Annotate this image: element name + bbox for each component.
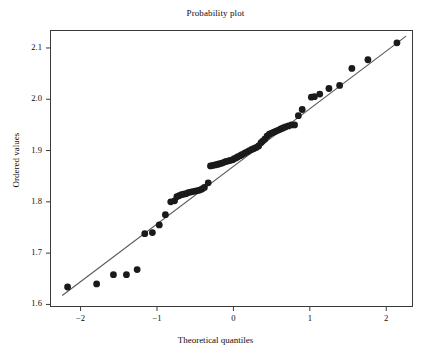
data-point: [134, 266, 141, 273]
probability-plot-figure: Probability plot 1.61.71.81.92.02.1 −2−1…: [0, 0, 431, 359]
data-point: [205, 179, 212, 186]
reference-line: [62, 36, 406, 295]
data-point: [365, 56, 372, 63]
data-point: [295, 112, 302, 119]
data-point: [141, 230, 148, 237]
x-axis-label: Theoretical quantiles: [0, 335, 431, 345]
data-point: [326, 85, 333, 92]
data-point: [149, 229, 156, 236]
data-point: [64, 284, 71, 291]
data-point: [291, 121, 298, 128]
data-point: [162, 211, 169, 218]
y-axis-label: Ordered values: [11, 100, 21, 220]
data-point: [93, 281, 100, 288]
data-point: [316, 91, 323, 98]
plot-canvas: [0, 0, 431, 359]
data-point: [336, 82, 343, 89]
data-point-group: [64, 39, 400, 290]
data-point: [123, 271, 130, 278]
data-point: [299, 106, 306, 113]
data-point: [156, 222, 163, 229]
data-point: [110, 271, 117, 278]
reference-line-group: [62, 36, 406, 295]
data-point: [348, 65, 355, 72]
data-point: [394, 39, 401, 46]
